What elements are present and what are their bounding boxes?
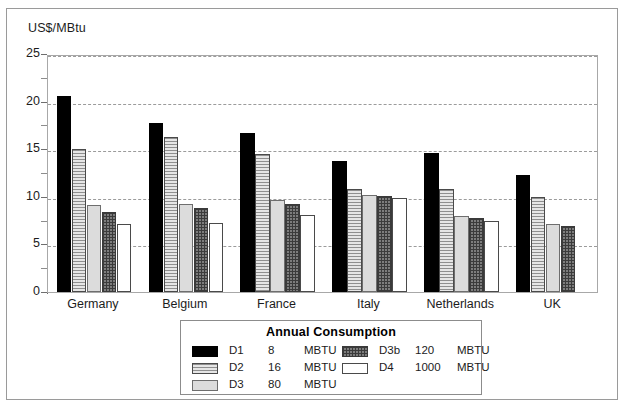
bar-italy-d1 bbox=[332, 161, 347, 292]
bar-france-d3b bbox=[285, 204, 300, 292]
solid-black-swatch bbox=[192, 346, 218, 357]
gridline bbox=[48, 56, 597, 57]
y-tick-label: 15 bbox=[0, 141, 40, 155]
legend-code: D2 bbox=[229, 361, 244, 373]
y-tick-label: 0 bbox=[0, 284, 40, 298]
gridline bbox=[48, 104, 597, 105]
legend-value: 16 bbox=[268, 361, 298, 373]
legend-code: D3b bbox=[379, 344, 400, 356]
bar-germany-d2 bbox=[72, 149, 87, 292]
x-tick-label-germany: Germany bbox=[47, 297, 139, 311]
bar-belgium-d3 bbox=[179, 204, 194, 292]
legend-unit: MBTU bbox=[304, 361, 337, 373]
bar-netherlands-d3b bbox=[469, 218, 484, 292]
x-tick-label-france: France bbox=[231, 297, 323, 311]
legend: Annual Consumption D18MBTUD216MBTUD380MB… bbox=[180, 320, 482, 395]
legend-title: Annual Consumption bbox=[181, 325, 481, 339]
bar-italy-d4 bbox=[392, 198, 407, 292]
bar-italy-d3b bbox=[377, 196, 392, 292]
legend-unit: MBTU bbox=[457, 361, 490, 373]
bar-belgium-d2 bbox=[164, 137, 179, 292]
bar-germany-d4 bbox=[117, 224, 132, 292]
bar-germany-d1 bbox=[57, 96, 72, 292]
plot-area bbox=[47, 55, 598, 293]
legend-value: 1000 bbox=[415, 361, 445, 373]
bar-france-d1 bbox=[240, 133, 255, 292]
light-gray-swatch bbox=[192, 380, 218, 391]
bar-uk-d3 bbox=[546, 224, 561, 292]
bar-italy-d3 bbox=[362, 195, 377, 292]
bar-uk-d2 bbox=[531, 197, 546, 292]
bar-belgium-d1 bbox=[149, 123, 164, 292]
bar-belgium-d3b bbox=[194, 208, 209, 292]
x-tick-label-uk: UK bbox=[506, 297, 598, 311]
bar-germany-d3b bbox=[102, 212, 117, 292]
x-tick-label-netherlands: Netherlands bbox=[414, 297, 506, 311]
y-tick-label: 10 bbox=[0, 189, 40, 203]
bar-netherlands-d3 bbox=[454, 216, 469, 292]
legend-value: 8 bbox=[268, 344, 298, 356]
legend-value: 120 bbox=[415, 344, 445, 356]
legend-code: D1 bbox=[229, 344, 244, 356]
legend-value: 80 bbox=[268, 378, 298, 390]
x-tick-label-belgium: Belgium bbox=[139, 297, 231, 311]
x-tick-label-italy: Italy bbox=[323, 297, 415, 311]
legend-unit: MBTU bbox=[304, 378, 337, 390]
dark-crosshatch-swatch bbox=[342, 346, 368, 357]
y-tick-label: 20 bbox=[0, 94, 40, 108]
legend-code: D4 bbox=[379, 361, 394, 373]
bar-netherlands-d1 bbox=[424, 153, 439, 292]
gridline bbox=[48, 151, 597, 152]
bar-uk-d3b bbox=[561, 226, 576, 292]
gas-price-bar-chart-figure: US$/MBtu 0510152025 GermanyBelgiumFrance… bbox=[0, 0, 626, 408]
bar-france-d4 bbox=[300, 215, 315, 292]
bar-netherlands-d2 bbox=[439, 189, 454, 292]
legend-unit: MBTU bbox=[457, 344, 490, 356]
gridline bbox=[48, 199, 597, 200]
bar-italy-d2 bbox=[347, 189, 362, 292]
bar-germany-d3 bbox=[87, 205, 102, 292]
bar-france-d2 bbox=[255, 154, 270, 292]
legend-unit: MBTU bbox=[304, 344, 337, 356]
white-swatch bbox=[342, 363, 368, 374]
y-axis-title: US$/MBtu bbox=[28, 21, 86, 35]
bar-uk-d1 bbox=[516, 175, 531, 292]
bar-netherlands-d4 bbox=[484, 221, 499, 292]
bar-belgium-d4 bbox=[209, 223, 224, 292]
y-tick-label: 25 bbox=[0, 46, 40, 60]
legend-code: D3 bbox=[229, 378, 244, 390]
y-tick-label: 5 bbox=[0, 236, 40, 250]
horizontal-stripe-swatch bbox=[192, 363, 218, 374]
bar-france-d3 bbox=[270, 200, 285, 292]
